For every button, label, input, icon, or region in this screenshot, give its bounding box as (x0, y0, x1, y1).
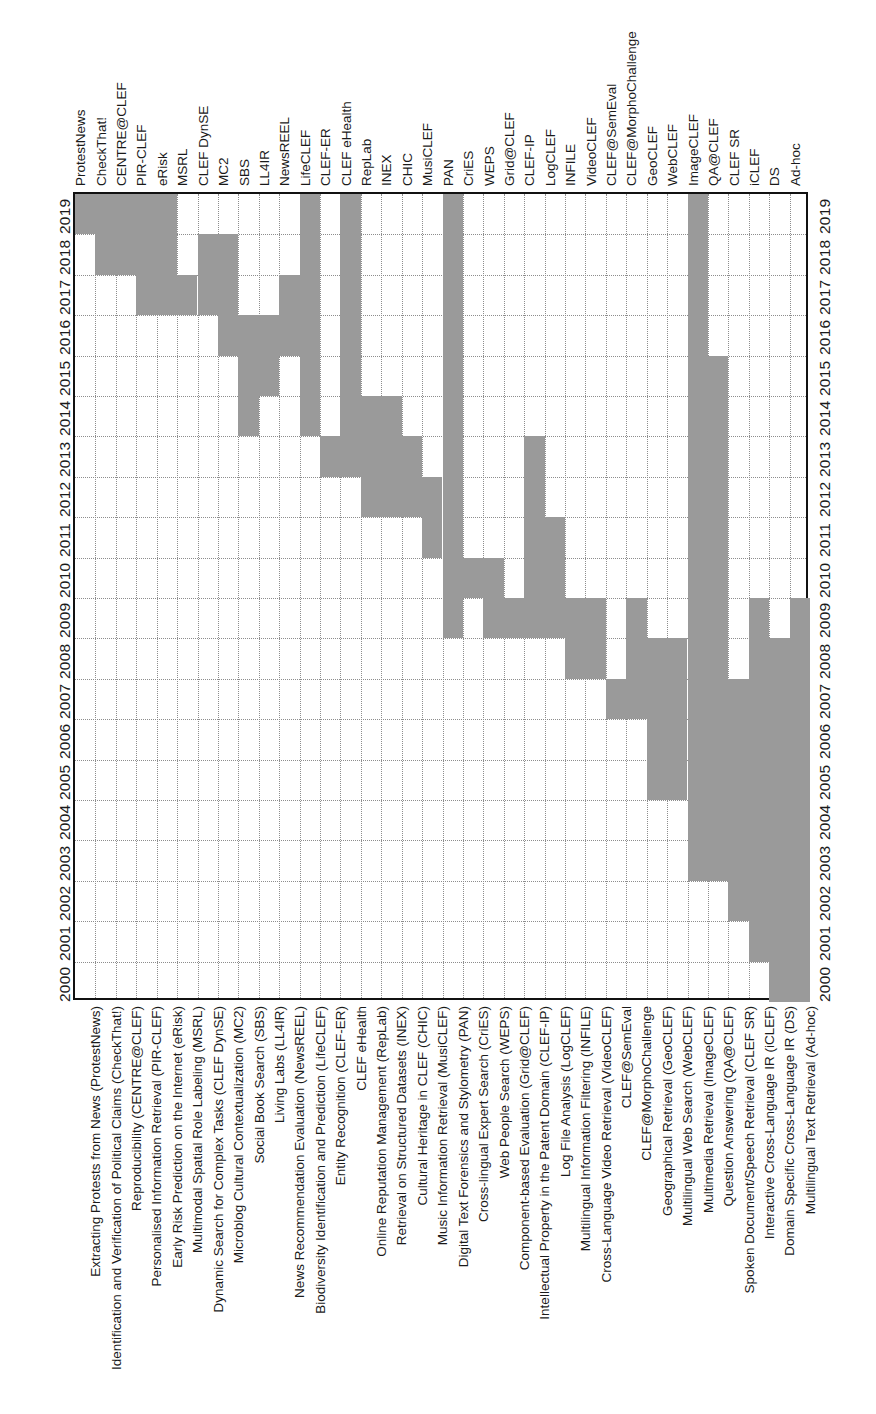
activity-bar (626, 598, 646, 719)
lab-short-label: ProtestNews (73, 109, 88, 186)
lab-short-label: eRisk (155, 152, 170, 186)
activity-bar (95, 194, 115, 275)
year-tick-label: 2014 (816, 401, 834, 436)
year-tick-label: 2012 (56, 482, 74, 517)
year-tick-label: 2009 (56, 603, 74, 638)
lab-short-label: LL4IR (257, 150, 272, 186)
lab-short-label: Ad-hoc (788, 143, 803, 186)
activity-bar (585, 598, 605, 679)
lab-full-label: Personalised Information Retrieval (PIR-… (149, 1006, 164, 1287)
year-tick-label: 2010 (816, 563, 834, 598)
year-tick-label: 2017 (56, 280, 74, 315)
activity-bar (606, 679, 626, 719)
lab-short-label: WEPS (482, 146, 497, 186)
activity-bar (728, 679, 748, 921)
lab-short-label: RepLab (359, 139, 374, 186)
lab-full-label: Multilingual Text Retrieval (Ad-hoc) (803, 1006, 818, 1214)
lab-short-label: PAN (441, 159, 456, 186)
year-tick-label: 2000 (816, 967, 834, 1002)
year-tick-label: 2000 (56, 967, 74, 1002)
activity-bar (320, 436, 340, 476)
lab-full-label: Early Risk Prediction on the Internet (e… (170, 1006, 185, 1268)
activity-bar (504, 598, 524, 638)
activity-bar (361, 396, 381, 517)
activity-bar (238, 315, 258, 436)
year-tick-label: 2014 (56, 401, 74, 436)
activity-bar (443, 194, 463, 638)
lab-short-name-axis-top: ProtestNewsCheckThat!CENTRE@CLEFPIR-CLEF… (73, 0, 808, 186)
activity-bar (749, 598, 769, 962)
activity-cells (75, 194, 806, 998)
activity-bar (422, 477, 442, 558)
activity-bar (483, 558, 503, 639)
lab-full-label: Spoken Document/Speech Retrieval (CLEF S… (742, 1006, 757, 1293)
lab-full-label: Biodiversity Identification and Predicti… (313, 1006, 328, 1314)
lab-short-label: SBS (237, 159, 252, 186)
lab-short-label: Grid@CLEF (502, 112, 517, 186)
lab-short-label: QA@CLEF (706, 118, 721, 186)
lab-full-label: Question Answering (QA@CLEF) (721, 1006, 736, 1207)
lab-short-label: CLEF-ER (318, 128, 333, 186)
activity-bar (667, 638, 687, 800)
lab-full-label: Digital Text Forensics and Stylometry (P… (456, 1006, 471, 1267)
year-tick-label: 2010 (56, 563, 74, 598)
lab-full-label: Online Reputation Management (RepLab) (374, 1006, 389, 1257)
lab-full-label: Component-based Evaluation (Grid@CLEF) (517, 1006, 532, 1270)
year-tick-label: 2017 (816, 280, 834, 315)
lab-full-label: Cross-lingual Expert Search (CriES) (476, 1006, 491, 1222)
activity-bar (647, 638, 667, 800)
lab-short-label: CENTRE@CLEF (114, 82, 129, 186)
year-tick-label: 2011 (816, 523, 834, 557)
year-tick-label: 2015 (56, 361, 74, 396)
lab-full-label: Living Labs (LL4IR) (272, 1006, 287, 1123)
activity-bar (790, 598, 810, 1002)
activity-bar (218, 234, 238, 355)
lab-full-label: Reproducibility (CENTRE@CLEF) (129, 1006, 144, 1211)
lab-short-label: iCLEF (747, 148, 762, 186)
lab-short-label: INEX (379, 154, 394, 186)
year-tick-label: 2005 (56, 765, 74, 800)
lab-full-label: Multilingual Information Filtering (INFI… (578, 1006, 593, 1251)
activity-bar (545, 517, 565, 638)
lab-full-label: Domain Specific Cross-Language IR (DS) (782, 1006, 797, 1256)
activity-bar (688, 194, 708, 881)
year-tick-label: 2004 (56, 805, 74, 840)
year-tick-label: 2015 (816, 361, 834, 396)
activity-bar (75, 194, 95, 234)
lab-full-label: Multimedia Retrieval (ImageCLEF) (701, 1006, 716, 1213)
year-tick-label: 2007 (816, 684, 834, 719)
year-tick-label: 2013 (56, 441, 74, 476)
lab-short-label: MusiCLEF (420, 123, 435, 186)
lab-full-label: Microblog Cultural Contextualization (MC… (231, 1006, 246, 1263)
year-tick-label: 2002 (56, 886, 74, 921)
lab-full-label: Retrieval on Structured Datasets (INEX) (394, 1006, 409, 1245)
year-tick-label: 2001 (816, 926, 834, 961)
lab-full-label: CLEF eHealth (354, 1006, 369, 1091)
lab-short-label: DS (767, 167, 782, 186)
lab-short-label: CLEF eHealth (339, 101, 354, 186)
lab-full-label: Cross-Language Video Retrieval (VideoCLE… (599, 1006, 614, 1282)
lab-full-label: Web People Search (WEPS) (497, 1006, 512, 1178)
year-tick-label: 2007 (56, 684, 74, 719)
lab-full-label: Cultural Heritage in CLEF (CHIC) (415, 1006, 430, 1206)
lab-full-label: Identification and Verification of Polit… (109, 1006, 124, 1370)
lab-full-label: News Recommendation Evaluation (NewsREEL… (292, 1006, 307, 1298)
activity-bar (402, 436, 422, 517)
activity-bar (279, 275, 299, 356)
activity-bar (136, 194, 156, 315)
lab-short-label: INFILE (563, 144, 578, 186)
year-tick-label: 2016 (816, 320, 834, 355)
lab-short-label: GeoCLEF (645, 126, 660, 186)
lab-short-label: CheckThat! (94, 117, 109, 186)
lab-short-label: NewsREEL (277, 117, 292, 186)
lab-full-label: Interactive Cross-Language IR (iCLEF) (762, 1006, 777, 1239)
year-tick-label: 2006 (56, 724, 74, 759)
year-tick-label: 2008 (56, 643, 74, 678)
lab-full-label: CLEF@SemEval (619, 1006, 634, 1108)
activity-bar (565, 598, 585, 679)
year-tick-label: 2013 (816, 441, 834, 476)
year-tick-label: 2012 (816, 482, 834, 517)
timeline-matrix-plot (73, 192, 808, 1000)
year-tick-label: 2018 (816, 239, 834, 274)
activity-bar (769, 638, 789, 1002)
